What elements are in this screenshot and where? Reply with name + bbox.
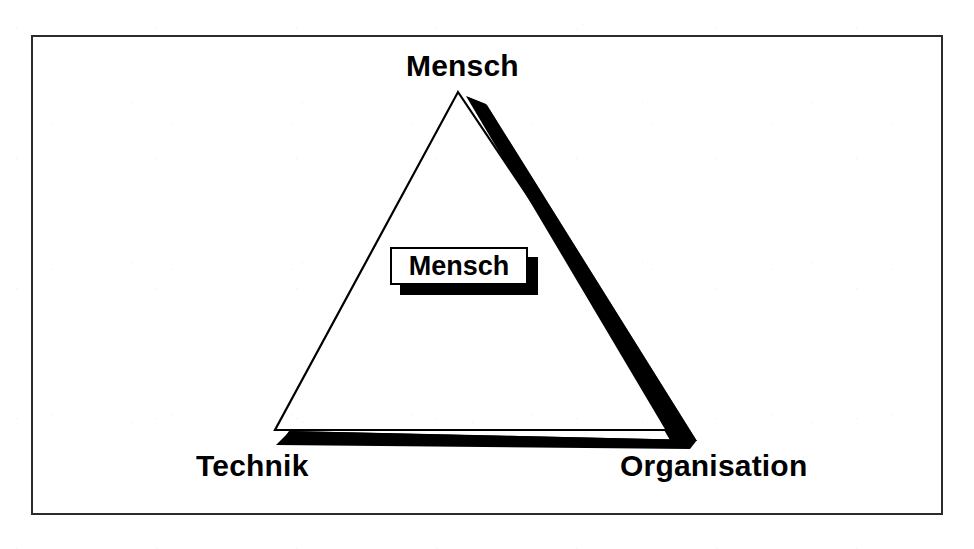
- center-callout: Mensch: [390, 247, 538, 295]
- vertex-label-technik: Technik: [196, 450, 309, 482]
- center-callout-label: Mensch: [409, 252, 510, 280]
- vertex-label-mensch: Mensch: [406, 50, 519, 82]
- vertex-label-organisation: Organisation: [620, 450, 807, 482]
- diagram-frame: Mensch Technik Organisation Mensch: [31, 35, 943, 515]
- center-callout-box: Mensch: [390, 247, 528, 285]
- triangle-bottom-shadow-fill: [276, 431, 697, 449]
- diagram-page: Mensch Technik Organisation Mensch: [0, 0, 974, 549]
